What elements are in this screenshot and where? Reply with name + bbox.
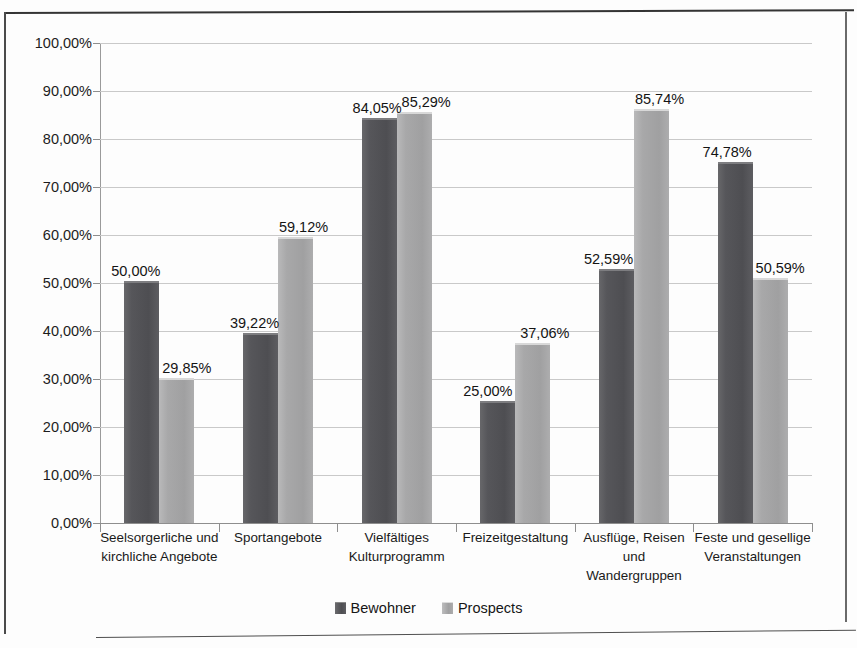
y-axis-tickmark <box>93 283 100 284</box>
x-axis-tickmark <box>812 523 813 532</box>
bar-value-label: 74,78% <box>703 144 752 160</box>
bar-bewohner[interactable] <box>243 333 278 523</box>
bar-value-label: 59,12% <box>279 219 328 235</box>
gridline <box>100 187 812 188</box>
y-axis-tickmark <box>93 235 100 236</box>
chart-legend: BewohnerProspects <box>0 600 857 616</box>
gridline <box>100 43 812 44</box>
bar-value-label: 50,00% <box>111 263 160 279</box>
bar-group <box>599 43 669 523</box>
legend-item-bewohner[interactable]: Bewohner <box>335 600 416 616</box>
x-axis-category-label: Seelsorgerliche und kirchliche Angebote <box>100 528 219 566</box>
bar-value-label: 50,59% <box>756 260 805 276</box>
y-axis-tickmark <box>93 427 100 428</box>
y-axis-tickmark <box>93 91 100 92</box>
gridline <box>100 331 812 332</box>
gridline <box>100 139 812 140</box>
x-axis-category-label: Vielfältiges Kulturprogramm <box>337 528 456 566</box>
gridline <box>100 475 812 476</box>
bar-bewohner[interactable] <box>362 118 397 523</box>
bar-value-label: 84,05% <box>353 100 402 116</box>
bar-value-label: 37,06% <box>520 325 569 341</box>
gridline <box>100 283 812 284</box>
y-axis-tickmark <box>93 523 100 524</box>
y-axis-tickmarks <box>0 43 100 523</box>
bar-chart: 100,00%90,00%80,00%70,00%60,00%50,00%40,… <box>0 0 857 648</box>
x-axis-category-labels: Seelsorgerliche und kirchliche AngeboteS… <box>100 528 812 598</box>
y-axis-tickmark <box>93 187 100 188</box>
bar-value-label: 39,22% <box>230 315 279 331</box>
bar-prospects[interactable] <box>159 378 194 523</box>
x-axis-tickmark <box>693 523 694 532</box>
x-axis-category-label: Feste und gesellige Veranstaltungen <box>693 528 812 566</box>
bar-value-label: 85,74% <box>635 91 684 107</box>
y-axis-tickmark <box>93 379 100 380</box>
gridline <box>100 235 812 236</box>
bar-bewohner[interactable] <box>599 269 634 523</box>
bar-group <box>243 43 313 523</box>
bar-value-label: 29,85% <box>162 360 211 376</box>
legend-item-prospects[interactable]: Prospects <box>442 600 522 616</box>
bar-value-label: 25,00% <box>463 383 512 399</box>
bar-value-label: 85,29% <box>402 94 451 110</box>
bar-bewohner[interactable] <box>718 162 753 523</box>
gridline <box>100 427 812 428</box>
gridline <box>100 379 812 380</box>
x-axis-category-label: Ausflüge, Reisen und Wandergruppen <box>575 528 694 585</box>
bar-prospects[interactable] <box>515 343 550 523</box>
y-axis-tickmark <box>93 139 100 140</box>
bar-prospects[interactable] <box>634 109 669 523</box>
plot-area: 50,00%29,85%39,22%59,12%84,05%85,29%25,0… <box>100 43 812 523</box>
x-axis-tickmark <box>337 523 338 532</box>
bar-prospects[interactable] <box>753 278 788 523</box>
x-axis-tickmark <box>219 523 220 532</box>
bar-group <box>718 43 788 523</box>
x-axis-tickmark <box>575 523 576 532</box>
bar-value-label: 52,59% <box>584 251 633 267</box>
y-axis-tickmark <box>93 331 100 332</box>
x-axis-tickmark <box>100 523 101 532</box>
x-axis-category-label: Sportangebote <box>219 528 338 547</box>
bar-bewohner[interactable] <box>480 401 515 523</box>
y-axis-tickmark <box>93 475 100 476</box>
legend-label: Prospects <box>458 600 522 616</box>
prospects-swatch-icon <box>442 602 453 614</box>
gridline <box>100 91 812 92</box>
legend-label: Bewohner <box>351 600 416 616</box>
bar-prospects[interactable] <box>278 237 313 523</box>
scanned-page: 100,00%90,00%80,00%70,00%60,00%50,00%40,… <box>0 0 857 648</box>
bar-group <box>124 43 194 523</box>
y-axis-tickmark <box>93 43 100 44</box>
bar-group <box>480 43 550 523</box>
x-axis-category-label: Freizeitgestaltung <box>456 528 575 547</box>
bar-prospects[interactable] <box>397 112 432 523</box>
bar-bewohner[interactable] <box>124 281 159 523</box>
bewohner-swatch-icon <box>335 602 346 614</box>
x-axis-tickmark <box>456 523 457 532</box>
